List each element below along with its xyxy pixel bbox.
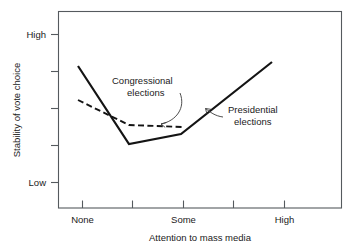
series-congressional-elections bbox=[78, 100, 182, 127]
presidential-elections-label-line2: elections bbox=[234, 116, 272, 127]
congressional-elections-label-line2: elections bbox=[127, 87, 165, 98]
y-axis-ticks bbox=[51, 35, 59, 183]
x-axis-title: Attention to mass media bbox=[149, 232, 252, 243]
plot-frame bbox=[59, 12, 342, 209]
chart-figure: High Low Stability of vote choice None S… bbox=[0, 0, 358, 250]
x-tick-label-high: High bbox=[275, 214, 295, 225]
congressional-elections-label-line1: Congressional bbox=[112, 75, 173, 86]
presidential-elections-label-line1: Presidential bbox=[228, 104, 278, 115]
x-axis-ticks bbox=[83, 201, 285, 209]
line-chart-svg: High Low Stability of vote choice None S… bbox=[0, 0, 358, 250]
x-tick-label-some: Some bbox=[171, 214, 196, 225]
series-presidential-elections bbox=[78, 62, 272, 144]
y-tick-label-high: High bbox=[26, 29, 46, 40]
y-axis-title: Stability of vote choice bbox=[11, 63, 22, 158]
y-tick-label-low: Low bbox=[29, 177, 47, 188]
x-tick-label-none: None bbox=[71, 214, 94, 225]
